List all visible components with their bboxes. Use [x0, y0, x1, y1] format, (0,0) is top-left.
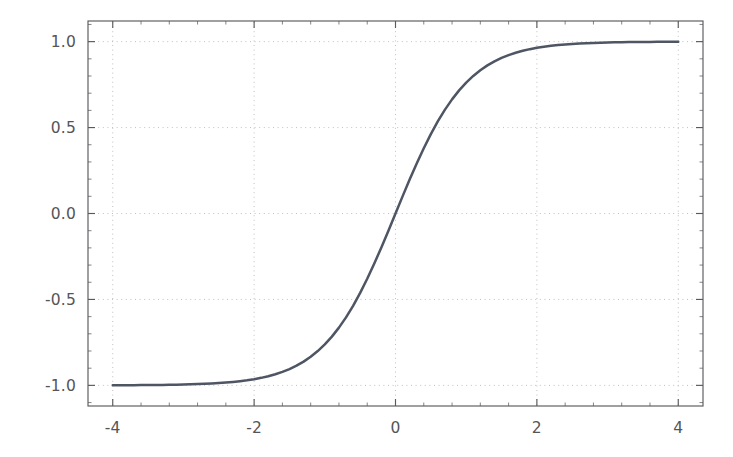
x-axis-tick-label: -2 — [246, 419, 262, 437]
chart-figure: 1.00.50.0-0.5-1.0 -4-2024 — [0, 0, 733, 457]
x-axis-tick-labels: -4-2024 — [105, 419, 683, 437]
y-axis-tick-label: 0.0 — [51, 205, 76, 223]
x-axis-tick-label: 4 — [673, 419, 683, 437]
data-series-line — [113, 42, 679, 386]
y-axis-tick-label: 1.0 — [51, 33, 76, 51]
y-axis-tick-label: -1.0 — [45, 377, 76, 395]
y-axis-tick-label: 0.5 — [51, 119, 76, 137]
data-series-group — [113, 42, 679, 386]
x-axis-tick-label: -4 — [105, 419, 121, 437]
y-axis-tick-label: -0.5 — [45, 291, 76, 309]
plot-canvas: 1.00.50.0-0.5-1.0 -4-2024 — [0, 0, 733, 457]
x-axis-tick-label: 0 — [390, 419, 400, 437]
x-axis-tick-label: 2 — [532, 419, 542, 437]
y-axis-tick-labels: 1.00.50.0-0.5-1.0 — [45, 33, 76, 395]
